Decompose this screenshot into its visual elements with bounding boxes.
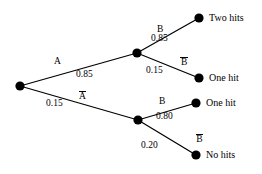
edge-a-to-b	[137, 18, 199, 53]
edge-prob-b-lower: 0.80	[156, 112, 173, 122]
outcome-label-one-hit-lower: One hit	[206, 98, 236, 108]
edge-label-a-bar: A	[79, 92, 86, 102]
edge-label-a: A	[54, 57, 61, 67]
outcome-label-one-hit-upper: One hit	[209, 73, 239, 83]
node-branch-a-bar	[133, 115, 142, 124]
node-leaf-one-hit-lower	[191, 98, 200, 107]
edge-prob-b-bar-lower: 0.20	[141, 141, 158, 151]
edge-prob-a-bar: 0.15	[46, 99, 63, 109]
node-leaf-two-hits	[194, 13, 203, 22]
edge-prob-a: 0.85	[76, 70, 93, 80]
edge-label-b-bar-upper: B	[181, 58, 187, 68]
node-leaf-no-hits	[191, 150, 200, 159]
probability-tree-diagram: A A 0.85 0.15 B B 0.85 0.15 B B 0.80 0.2…	[0, 0, 262, 174]
edge-label-b-lower: B	[159, 97, 165, 107]
edge-prob-b-bar-upper: 0.15	[146, 66, 163, 76]
node-leaf-one-hit-upper	[194, 73, 203, 82]
tree-edges-and-nodes	[0, 0, 262, 174]
outcome-label-two-hits: Two hits	[209, 13, 244, 23]
node-branch-a	[132, 48, 141, 57]
outcome-label-no-hits: No hits	[206, 150, 235, 160]
edge-prob-b-upper: 0.85	[151, 34, 168, 44]
node-root	[15, 81, 24, 90]
edge-label-b-bar-lower: B	[196, 135, 202, 145]
